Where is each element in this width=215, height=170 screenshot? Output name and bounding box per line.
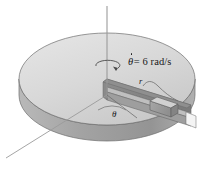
radius-label: r xyxy=(139,77,142,86)
theta-dot-symbol: θ xyxy=(128,56,134,67)
angle-label: θ xyxy=(112,110,116,119)
figure-illustration xyxy=(0,0,215,170)
rotating-disk-figure: θ= 6 rad/s r θ xyxy=(0,0,215,170)
angular-velocity-label: θ= 6 rad/s xyxy=(128,57,172,68)
slot-rim-notch xyxy=(186,112,196,128)
angular-velocity-value: = 6 rad/s xyxy=(134,56,172,67)
